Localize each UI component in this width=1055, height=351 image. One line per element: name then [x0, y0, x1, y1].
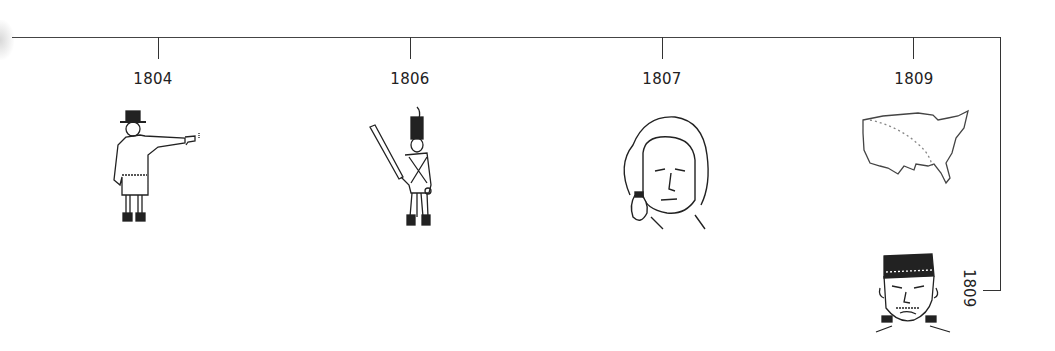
- frankenstein-monster-head-icon: [872, 248, 954, 338]
- year-label-1804: 1804: [133, 70, 172, 88]
- year-label-1806: 1806: [390, 70, 429, 88]
- tick-1809: [913, 37, 914, 59]
- year-label-1809: 1809: [894, 70, 933, 88]
- branch-horizontal-stub: [983, 290, 1001, 291]
- duel-pistol-figure-icon: [100, 105, 210, 230]
- edge-shadow: [0, 20, 14, 60]
- soldier-with-rifle-icon: [365, 105, 445, 230]
- year-label-1807: 1807: [642, 70, 681, 88]
- us-map-outline-icon: [858, 108, 973, 193]
- powdered-wig-portrait-icon: [615, 105, 715, 230]
- year-label-1809-rotated: 1809: [960, 269, 978, 307]
- tick-1804: [158, 37, 159, 59]
- branch-vertical-line: [1000, 37, 1001, 290]
- timeline-diagram: 1804 1806 1807 1809 1809: [0, 0, 1055, 351]
- tick-1806: [410, 37, 411, 59]
- timeline-axis: [12, 37, 1001, 38]
- tick-1807: [662, 37, 663, 59]
